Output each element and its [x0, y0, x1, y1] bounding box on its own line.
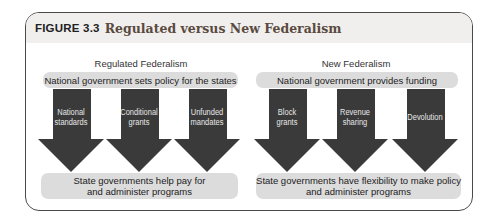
down-arrow-icon [322, 89, 388, 172]
bottom-box-line1: State governments help pay for [73, 175, 205, 186]
arrow-devolution: Devolution [392, 89, 458, 172]
figure-title: Regulated versus New Federalism [105, 21, 342, 36]
down-arrow-icon [392, 89, 458, 172]
arrow-label-line1: National [42, 107, 100, 117]
top-box-new: National government provides funding [256, 72, 458, 88]
figure-number: FIGURE 3.3 [35, 22, 100, 34]
arrow-block-grants: Blockgrants [254, 89, 320, 172]
arrow-label-line2: sharing [326, 117, 384, 127]
down-arrow-icon [38, 89, 104, 172]
arrow-label-line1: Unfunded [178, 107, 236, 117]
arrow-label-line1: Devolution [396, 112, 454, 122]
panel-title-regulated: Regulated Federalism [41, 58, 241, 69]
bottom-box-line2: and administer programs [87, 186, 192, 197]
arrow-label-line2: mandates [178, 117, 236, 127]
bottom-box-line2: and administer programs [306, 186, 411, 197]
arrow-label-line1: Conditional [110, 107, 168, 117]
arrow-national-standards: Nationalstandards [38, 89, 104, 172]
panel-title-new: New Federalism [256, 58, 456, 69]
top-box-regulated: National government sets policy for the … [43, 72, 238, 88]
arrow-revenue-sharing: Revenuesharing [322, 89, 388, 172]
arrow-label-line1: Revenue [326, 107, 384, 117]
bottom-box-regulated: State governments help pay for and admin… [41, 173, 238, 199]
figure-frame: FIGURE 3.3 Regulated versus New Federali… [25, 12, 473, 211]
arrow-unfunded-mandates: Unfundedmandates [174, 89, 240, 172]
bottom-box-new: State governments have flexibility to ma… [256, 173, 461, 199]
arrow-label-line2: standards [42, 117, 100, 127]
bottom-box-line1: State governments have flexibility to ma… [256, 175, 461, 186]
down-arrow-icon [106, 89, 172, 172]
figure-header: FIGURE 3.3 Regulated versus New Federali… [26, 13, 472, 43]
down-arrow-icon [174, 89, 240, 172]
arrow-conditional-grants: Conditionalgrants [106, 89, 172, 172]
arrow-label-line1: Block [258, 107, 316, 117]
down-arrow-icon [254, 89, 320, 172]
arrow-label-line2: grants [110, 117, 168, 127]
arrow-label-line2: grants [258, 117, 316, 127]
